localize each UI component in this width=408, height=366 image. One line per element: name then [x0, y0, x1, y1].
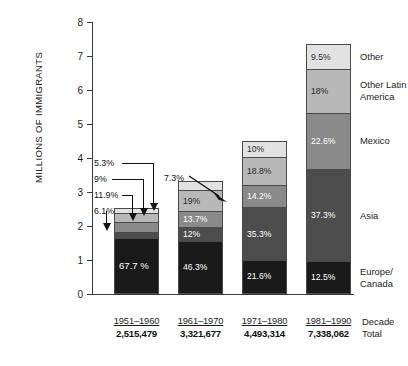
segment-label: 46.3%	[179, 263, 207, 272]
y-tick-label-0: 0	[77, 288, 83, 299]
segment-label: 67.7 %	[115, 261, 149, 271]
y-tick-label-2: 2	[77, 220, 83, 231]
arrow-11-9	[129, 213, 137, 221]
y-tick-label-4: 4	[77, 152, 83, 163]
segment-label: 10%	[243, 145, 264, 154]
segment-label: 22.6%	[307, 137, 335, 146]
leader-5-3-v	[153, 163, 154, 205]
segment-1951-1960-europe--canada[interactable]: 67.7 %	[114, 238, 159, 294]
arrow-5-3	[150, 203, 158, 211]
y-tick-4	[87, 158, 92, 159]
legend-item-mexico[interactable]: Mexico	[360, 135, 390, 147]
segment-1971-1980-other-latin-america[interactable]: 18.8%	[242, 157, 287, 186]
y-tick-2	[87, 226, 92, 227]
decade-label: 1971–1980	[228, 316, 302, 326]
segment-label: 37.3%	[307, 211, 335, 220]
bar-1951-1960[interactable]: 67.7 %	[114, 208, 159, 293]
segment-1981-1990-other[interactable]: 9.5%	[306, 44, 351, 68]
decade-total: 7,338,062	[292, 328, 366, 339]
leader-9	[112, 179, 144, 180]
y-axis-title: MILLIONS OF IMMIGRANTS	[33, 18, 44, 218]
legend-item-europe--canada[interactable]: Europe/ Canada	[360, 266, 393, 289]
y-tick-label-7: 7	[77, 50, 83, 61]
segment-label: 21.6%	[243, 272, 271, 281]
y-tick-1	[87, 260, 92, 261]
segment-1951-1960-other-latin-america[interactable]	[114, 213, 159, 221]
leader-11-9-v	[132, 195, 133, 215]
decade-label: 1981–1990	[292, 316, 366, 326]
arrow-6-1	[103, 223, 111, 231]
x-label-group-0: 1951–19602,515,479	[100, 316, 174, 339]
bar-1971-1980[interactable]: 10%18.8%14.2%35.3%21.6%	[242, 141, 287, 294]
segment-1961-1970-asia[interactable]: 12%	[178, 227, 223, 241]
y-tick-label-6: 6	[77, 84, 83, 95]
callout-5-3-percent: 5.3%	[94, 158, 114, 168]
x-axis-caption: Decade Total	[362, 316, 394, 339]
y-tick-5	[87, 124, 92, 125]
bar-1981-1990[interactable]: 9.5%18%22.6%37.3%12.5%	[306, 44, 351, 293]
legend: OtherOther Latin AmericaMexicoAsiaEurope…	[360, 22, 408, 295]
leader-5-3	[122, 163, 154, 164]
decade-label: 1961–1970	[164, 316, 238, 326]
y-tick-label-5: 5	[77, 118, 83, 129]
segment-1981-1990-mexico[interactable]: 22.6%	[306, 113, 351, 169]
decade-total: 2,515,479	[100, 328, 174, 339]
legend-item-other[interactable]: Other	[360, 51, 383, 63]
segment-label: 18.8%	[243, 167, 271, 176]
segment-1961-1970-europe--canada[interactable]: 46.3%	[178, 241, 223, 293]
callout-7-3-percent: 7.3%	[164, 173, 184, 183]
callout-11-9-percent: 11.9%	[94, 190, 118, 200]
segment-1981-1990-europe--canada[interactable]: 12.5%	[306, 261, 351, 293]
callout-6-1-percent: 6.1%	[94, 206, 114, 216]
segment-label: 12%	[179, 230, 200, 239]
y-tick-label-8: 8	[77, 17, 83, 28]
y-tick-label-1: 1	[77, 254, 83, 265]
segment-1981-1990-asia[interactable]: 37.3%	[306, 169, 351, 261]
segment-1971-1980-asia[interactable]: 35.3%	[242, 207, 287, 260]
y-tick-3	[87, 192, 92, 193]
x-label-group-2: 1971–19804,493,314	[228, 316, 302, 339]
callout-9-percent: 9%	[94, 174, 107, 184]
y-tick-8	[87, 22, 92, 23]
segment-1981-1990-other-latin-america[interactable]: 18%	[306, 69, 351, 114]
arrow-7-3-diagonal	[189, 174, 235, 206]
segment-1971-1980-mexico[interactable]: 14.2%	[242, 185, 287, 207]
y-tick-6	[87, 90, 92, 91]
segment-label: 14.2%	[243, 192, 271, 201]
segment-1951-1960-mexico[interactable]	[114, 222, 159, 232]
segment-1971-1980-other[interactable]: 10%	[242, 141, 287, 157]
x-axis-line	[92, 294, 354, 295]
leader-9-v	[143, 179, 144, 210]
y-tick-7	[87, 56, 92, 57]
segment-label: 9.5%	[307, 53, 331, 62]
y-tick-label-3: 3	[77, 186, 83, 197]
x-label-group-1: 1961–19703,321,677	[164, 316, 238, 339]
y-tick-0	[87, 294, 92, 295]
legend-item-asia[interactable]: Asia	[360, 210, 378, 222]
decade-total: 3,321,677	[164, 328, 238, 339]
arrow-9	[140, 208, 148, 216]
segment-label: 18%	[307, 87, 328, 96]
segment-label: 12.5%	[307, 273, 335, 282]
segment-1961-1970-mexico[interactable]: 13.7%	[178, 211, 223, 227]
segment-label: 35.3%	[243, 230, 271, 239]
x-label-group-3: 1981–19907,338,062	[292, 316, 366, 339]
decade-label: 1951–1960	[100, 316, 174, 326]
legend-item-other-latin-america[interactable]: Other Latin America	[360, 79, 406, 102]
immigration-stacked-bar-chart: MILLIONS OF IMMIGRANTS 012345678 67.7 %1…	[0, 0, 408, 366]
plot-area: 012345678 67.7 %19%13.7%12%46.3%10%18.8%…	[92, 22, 354, 295]
segment-label: 13.7%	[179, 215, 207, 224]
segment-1971-1980-europe--canada[interactable]: 21.6%	[242, 260, 287, 294]
decade-total: 4,493,314	[228, 328, 302, 339]
